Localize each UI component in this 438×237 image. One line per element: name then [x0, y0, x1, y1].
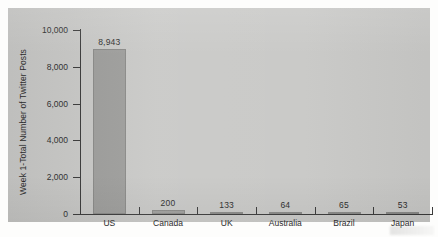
y-tick-mark	[73, 214, 80, 215]
bar-value-label: 200	[138, 198, 198, 208]
y-tick-mark	[73, 177, 80, 178]
bar-value-label: 53	[373, 200, 433, 210]
y-axis-title: Week 1-Total Number of Twitter Posts	[16, 30, 30, 214]
chart-panel: Week 1-Total Number of Twitter Posts 10,…	[8, 8, 430, 222]
bar-value-label: 64	[255, 200, 315, 210]
y-tick-mark	[73, 30, 80, 31]
bar-us	[93, 49, 126, 214]
y-tick-label: 8,000	[24, 62, 68, 72]
bar-value-label: 65	[314, 200, 374, 210]
y-tick-mark	[73, 67, 80, 68]
scanned-page: Week 1-Total Number of Twitter Posts 10,…	[0, 0, 438, 237]
y-tick-mark	[73, 140, 80, 141]
bar-brazil	[328, 212, 361, 214]
y-tick-label: 4,000	[24, 135, 68, 145]
y-tick-label: 10,000	[24, 25, 68, 35]
y-tick-label: 6,000	[24, 99, 68, 109]
bar-australia	[269, 212, 302, 214]
x-axis-end-tick	[432, 207, 433, 215]
bar-uk	[210, 212, 243, 214]
bar-value-label: 8,943	[79, 37, 139, 47]
scan-artifact	[390, 226, 434, 235]
bar-value-label: 133	[197, 200, 257, 210]
bar-japan	[386, 212, 419, 214]
y-tick-label: 2,000	[24, 172, 68, 182]
y-tick-mark	[73, 104, 80, 105]
y-tick-label: 0	[24, 209, 68, 219]
bar-canada	[152, 210, 185, 214]
plot-area	[80, 30, 432, 214]
